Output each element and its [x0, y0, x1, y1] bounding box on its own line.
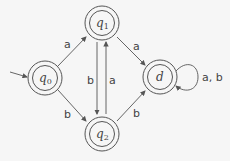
- state-q0: q0: [28, 61, 62, 95]
- label-q2-q1: a: [109, 74, 116, 87]
- label-q2-d: b: [133, 107, 140, 120]
- automaton-diagram: a b b a a b a, b q0 q1 q2 d: [0, 0, 230, 161]
- label-q1-q2: b: [87, 74, 94, 87]
- edge-q1-d: [117, 37, 145, 65]
- state-d: d: [143, 60, 177, 94]
- edge-q0-q1: [58, 37, 86, 66]
- label-q0-q1: a: [64, 38, 71, 51]
- label-q0-q2: b: [64, 108, 71, 121]
- label-d-loop: a, b: [202, 71, 223, 84]
- edge-d-loop: [176, 65, 198, 91]
- edge-q2-d: [117, 91, 145, 121]
- label-q1-d: a: [133, 40, 140, 53]
- start-arrow: [10, 72, 27, 77]
- state-q1: q1: [85, 6, 119, 40]
- edge-q0-q2: [58, 90, 86, 121]
- svg-text:d: d: [156, 70, 164, 84]
- state-q2: q2: [85, 117, 119, 151]
